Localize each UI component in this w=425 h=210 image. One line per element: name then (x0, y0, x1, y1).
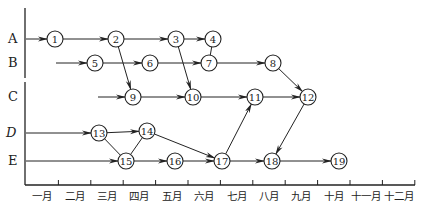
node-15: 15 (118, 153, 134, 169)
month-label: 十一月 (351, 188, 381, 203)
node-9: 9 (125, 89, 141, 105)
month-label: 六月 (194, 188, 214, 203)
month-label: 五月 (162, 188, 182, 203)
node-label: 8 (270, 58, 276, 69)
node-11: 11 (247, 89, 263, 105)
edge-2-9 (118, 47, 130, 90)
node-6: 6 (142, 55, 158, 71)
row-label-c: C (8, 89, 18, 104)
node-17: 17 (214, 153, 230, 169)
node-label: 18 (266, 156, 279, 167)
node-label: 9 (130, 92, 136, 103)
month-label: 九月 (291, 188, 311, 203)
node-label: 13 (93, 128, 106, 139)
node-1: 1 (47, 31, 63, 47)
edges (26, 39, 331, 161)
node-label: 10 (187, 92, 200, 103)
node-label: 3 (173, 34, 179, 45)
node-12: 12 (300, 89, 316, 105)
row-label-d: D (6, 125, 16, 140)
row-label-a: A (8, 31, 17, 46)
node-13: 13 (91, 125, 107, 141)
node-label: 14 (141, 126, 154, 137)
node-3: 3 (168, 31, 184, 47)
node-8: 8 (265, 55, 281, 71)
node-label: 11 (249, 92, 262, 103)
x-axis-ticks (58, 180, 414, 185)
edge-8-12 (279, 69, 303, 92)
month-label: 四月 (129, 188, 149, 203)
node-2: 2 (108, 31, 124, 47)
month-label: 三月 (97, 188, 117, 203)
node-16: 16 (167, 153, 183, 169)
edge-14-17 (154, 134, 214, 158)
edge-13-14 (107, 131, 139, 132)
row-label-b: B (8, 55, 18, 70)
node-label: 15 (120, 156, 133, 167)
node-label: 5 (92, 58, 98, 69)
node-label: 2 (113, 34, 119, 45)
month-label: 八月 (259, 188, 279, 203)
node-label: 12 (302, 92, 315, 103)
nodes: 12345678910111213141516171819 (47, 31, 347, 169)
node-14: 14 (139, 123, 155, 139)
node-label: 4 (210, 34, 216, 45)
node-10: 10 (185, 89, 201, 105)
node-label: 16 (169, 156, 182, 167)
node-5: 5 (87, 55, 103, 71)
node-label: 7 (206, 58, 212, 69)
month-label: 十月 (324, 188, 344, 203)
month-label: 一月 (32, 188, 52, 203)
node-label: 19 (333, 156, 346, 167)
edge-15-14 (131, 138, 143, 155)
node-7: 7 (201, 55, 217, 71)
diagram-canvas: 12345678910111213141516171819 (0, 0, 425, 210)
edge-13-15 (105, 139, 121, 155)
node-4: 4 (205, 31, 221, 47)
node-label: 17 (216, 156, 229, 167)
edge-3-10 (178, 47, 190, 90)
month-label: 七月 (227, 188, 247, 203)
month-label: 十二月 (384, 188, 414, 203)
network-diagram: 12345678910111213141516171819 ABCDE 一月二月… (0, 0, 425, 210)
row-label-e: E (8, 153, 18, 168)
month-label: 二月 (65, 188, 85, 203)
edge-17-11 (226, 104, 252, 154)
node-18: 18 (264, 153, 280, 169)
edge-12-18 (276, 104, 304, 154)
edge-4-7 (210, 47, 211, 55)
node-label: 6 (147, 58, 153, 69)
node-label: 1 (52, 34, 58, 45)
node-19: 19 (331, 153, 347, 169)
